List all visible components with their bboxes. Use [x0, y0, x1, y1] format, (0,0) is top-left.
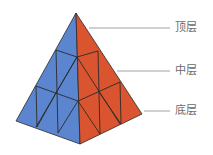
right-face [76, 13, 142, 144]
label-middle-layer: 中层 [175, 65, 197, 77]
left-face [16, 13, 80, 144]
label-bottom-layer: 底层 [175, 105, 197, 117]
label-top-layer: 顶层 [175, 22, 197, 34]
